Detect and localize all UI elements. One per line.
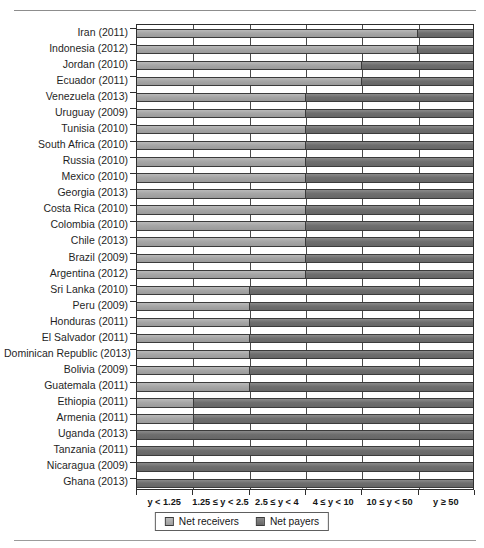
bar-segment-net-payers[interactable] (417, 30, 473, 37)
bar-segment-net-payers[interactable] (193, 415, 473, 422)
y-axis-label: Uruguay (2009) (4, 107, 128, 118)
bar-segment-net-receivers[interactable] (137, 62, 361, 69)
bar-segment-net-payers[interactable] (305, 126, 473, 133)
bar-segment-net-payers[interactable] (417, 46, 473, 53)
bar-row (137, 330, 473, 347)
bar-segment-net-receivers[interactable] (137, 78, 361, 85)
legend-item[interactable]: Net receivers (165, 516, 239, 527)
bar-segment-net-receivers[interactable] (137, 222, 305, 229)
x-axis-label: y < 1.25 (147, 497, 180, 508)
stacked-bar[interactable] (137, 61, 473, 70)
y-axis-label: Nicaragua (2009) (4, 460, 128, 471)
y-axis-label: Colombia (2010) (4, 219, 128, 230)
bar-segment-net-receivers[interactable] (137, 174, 305, 181)
stacked-bar[interactable] (137, 286, 473, 295)
stacked-bar[interactable] (137, 77, 473, 86)
stacked-bar[interactable] (137, 479, 473, 488)
y-axis-label: Uganda (2013) (4, 428, 128, 439)
bar-segment-net-payers[interactable] (305, 110, 473, 117)
bar-segment-net-receivers[interactable] (137, 383, 249, 390)
y-axis-label: Sri Lanka (2010) (4, 284, 128, 295)
bar-segment-net-payers[interactable] (249, 287, 473, 294)
bar-segment-net-payers[interactable] (305, 206, 473, 213)
bar-segment-net-receivers[interactable] (137, 238, 305, 245)
stacked-bar[interactable] (137, 462, 473, 471)
bar-segment-net-receivers[interactable] (137, 126, 305, 133)
bar-segment-net-receivers[interactable] (137, 30, 417, 37)
bar-row (137, 298, 473, 315)
bar-segment-net-payers[interactable] (249, 303, 473, 310)
bar-segment-net-receivers[interactable] (137, 287, 249, 294)
y-tick (130, 253, 136, 254)
bar-segment-net-receivers[interactable] (137, 206, 305, 213)
bar-segment-net-receivers[interactable] (137, 142, 305, 149)
stacked-bar[interactable] (137, 318, 473, 327)
legend-item[interactable]: Net payers (256, 516, 319, 527)
bar-segment-net-payers[interactable] (137, 480, 473, 487)
stacked-bar[interactable] (137, 125, 473, 134)
bar-segment-net-receivers[interactable] (137, 110, 305, 117)
bar-segment-net-payers[interactable] (361, 78, 473, 85)
stacked-bar[interactable] (137, 254, 473, 263)
bar-segment-net-payers[interactable] (249, 335, 473, 342)
bar-segment-net-receivers[interactable] (137, 351, 249, 358)
bar-segment-net-receivers[interactable] (137, 399, 193, 406)
stacked-bar[interactable] (137, 382, 473, 391)
stacked-bar[interactable] (137, 109, 473, 118)
bar-segment-net-payers[interactable] (137, 431, 473, 438)
stacked-bar[interactable] (137, 237, 473, 246)
stacked-bar[interactable] (137, 366, 473, 375)
stacked-bar[interactable] (137, 302, 473, 311)
stacked-bar[interactable] (137, 446, 473, 455)
bar-segment-net-payers[interactable] (305, 94, 473, 101)
stacked-bar[interactable] (137, 334, 473, 343)
bar-segment-net-payers[interactable] (305, 238, 473, 245)
bar-segment-net-receivers[interactable] (137, 271, 305, 278)
bar-segment-net-payers[interactable] (361, 62, 473, 69)
bar-segment-net-payers[interactable] (249, 319, 473, 326)
bar-segment-net-payers[interactable] (249, 351, 473, 358)
bar-segment-net-receivers[interactable] (137, 415, 193, 422)
bar-segment-net-receivers[interactable] (137, 255, 305, 262)
bar-segment-net-payers[interactable] (137, 447, 473, 454)
bar-segment-net-payers[interactable] (137, 463, 473, 470)
stacked-bar[interactable] (137, 29, 473, 38)
stacked-bar[interactable] (137, 45, 473, 54)
stacked-bar[interactable] (137, 414, 473, 423)
bar-segment-net-receivers[interactable] (137, 319, 249, 326)
bar-segment-net-payers[interactable] (305, 271, 473, 278)
bar-segment-net-payers[interactable] (305, 190, 473, 197)
y-axis-label: Venezuela (2013) (4, 91, 128, 102)
stacked-bar[interactable] (137, 430, 473, 439)
bar-segment-net-payers[interactable] (305, 222, 473, 229)
page-rule-bottom (14, 540, 476, 541)
bar-segment-net-payers[interactable] (249, 367, 473, 374)
y-axis-label: Bolivia (2009) (4, 364, 128, 375)
bar-segment-net-payers[interactable] (305, 255, 473, 262)
bar-segment-net-receivers[interactable] (137, 46, 417, 53)
stacked-bar[interactable] (137, 221, 473, 230)
stacked-bar[interactable] (137, 189, 473, 198)
bar-segment-net-payers[interactable] (305, 142, 473, 149)
bar-segment-net-receivers[interactable] (137, 190, 305, 197)
bar-segment-net-payers[interactable] (249, 383, 473, 390)
bar-segment-net-payers[interactable] (305, 158, 473, 165)
stacked-bar[interactable] (137, 157, 473, 166)
stacked-bar[interactable] (137, 205, 473, 214)
bar-segment-net-receivers[interactable] (137, 367, 249, 374)
bar-segment-net-receivers[interactable] (137, 158, 305, 165)
y-axis-label: Chile (2013) (4, 235, 128, 246)
stacked-bar[interactable] (137, 350, 473, 359)
stacked-bar[interactable] (137, 93, 473, 102)
stacked-bar[interactable] (137, 398, 473, 407)
bar-segment-net-receivers[interactable] (137, 303, 249, 310)
stacked-bar[interactable] (137, 141, 473, 150)
bar-segment-net-receivers[interactable] (137, 335, 249, 342)
bar-segment-net-receivers[interactable] (137, 94, 305, 101)
bar-segment-net-payers[interactable] (193, 399, 473, 406)
bar-row (137, 73, 473, 90)
bar-row (137, 379, 473, 396)
bar-segment-net-payers[interactable] (305, 174, 473, 181)
stacked-bar[interactable] (137, 270, 473, 279)
stacked-bar[interactable] (137, 173, 473, 182)
